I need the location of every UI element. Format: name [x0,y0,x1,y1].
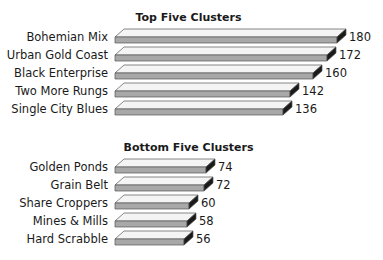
title-text: Bottom Five Clusters [124,141,254,154]
category-label: Single City Blues [11,102,108,116]
bar [114,175,214,193]
value-label: 72 [216,178,231,192]
bar-row: Bohemian Mix180 [0,27,383,45]
bar-row: Single City Blues136 [0,99,383,117]
bar-row: Grain Belt72 [0,175,383,193]
bar [114,27,347,45]
category-label: Hard Scrabble [27,232,108,246]
value-label: 180 [349,30,371,44]
category-label: Black Enterprise [14,66,108,80]
category-label: Share Croppers [19,196,108,210]
bar-row: Black Enterprise160 [0,63,383,81]
bar [114,193,199,211]
value-label: 56 [196,232,211,246]
bar [114,99,293,117]
value-label: 136 [295,102,317,116]
bar [114,45,337,63]
bar [114,63,323,81]
bar [114,157,216,175]
value-label: 58 [199,214,214,228]
bar [114,81,300,99]
bar [114,229,194,247]
value-label: 74 [218,160,233,174]
bar-row: Hard Scrabble56 [0,229,383,247]
value-label: 142 [302,84,324,98]
category-label: Urban Gold Coast [7,48,108,62]
bar-row: Mines & Mills58 [0,211,383,229]
value-label: 60 [201,196,216,210]
category-label: Bohemian Mix [26,30,108,44]
bar-row: Two More Rungs142 [0,81,383,99]
bar [114,211,197,229]
category-label: Grain Belt [51,178,109,192]
bar-row: Golden Ponds74 [0,157,383,175]
bar-row: Urban Gold Coast172 [0,45,383,63]
value-label: 172 [339,48,361,62]
chart-title-top: Top Five Clusters [0,11,383,24]
category-label: Mines & Mills [33,214,108,228]
category-label: Golden Ponds [29,160,108,174]
value-label: 160 [325,66,347,80]
title-text: Top Five Clusters [136,11,242,24]
chart-title-bottom: Bottom Five Clusters [0,141,383,154]
bar-row: Share Croppers60 [0,193,383,211]
category-label: Two More Rungs [15,84,108,98]
